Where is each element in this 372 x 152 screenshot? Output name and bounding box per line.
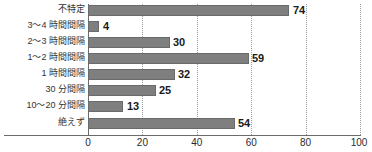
x-axis-line <box>4 135 361 136</box>
bar-row-6: 13 <box>88 101 360 117</box>
x-tick-label-0: 0 <box>85 137 91 148</box>
x-tick-label-2: 40 <box>191 137 202 148</box>
bar-value-3: 59 <box>252 50 264 66</box>
category-label-3: 1〜2 時間間隔 <box>0 52 85 63</box>
bar-5 <box>88 85 156 96</box>
bar-row-4: 32 <box>88 69 360 85</box>
x-tick-label-3: 60 <box>246 137 257 148</box>
bar-value-2: 30 <box>173 34 185 50</box>
bar-value-6: 13 <box>127 98 139 114</box>
bar-2 <box>88 37 170 48</box>
bar-3 <box>88 53 249 64</box>
category-label-2: 2〜3 時間間隔 <box>0 36 85 47</box>
category-label-1: 3〜4 時間間隔 <box>0 20 85 31</box>
category-label-7: 絶えず <box>0 117 85 128</box>
bar-value-5: 25 <box>159 82 171 98</box>
x-axis-tick-labels: 0 20 40 60 80 100 <box>0 137 372 152</box>
bar-row-7: 54 <box>88 118 360 134</box>
x-tick-label-4: 80 <box>300 137 311 148</box>
category-axis-labels: 不特定 3〜4 時間間隔 2〜3 時間間隔 1〜2 時間間隔 1 時間間隔 30… <box>0 4 85 135</box>
bar-4 <box>88 69 175 80</box>
bar-row-1: 4 <box>88 21 360 37</box>
bar-row-0: 74 <box>88 5 360 21</box>
bar-value-4: 32 <box>178 66 190 82</box>
x-tick-label-5: 100 <box>351 137 368 148</box>
bar-rows: 74 4 30 59 32 25 <box>88 4 360 135</box>
category-label-5: 30 分間隔 <box>0 84 85 95</box>
bar-1 <box>88 21 99 32</box>
bar-7 <box>88 118 235 129</box>
y-axis-line <box>88 4 89 135</box>
bar-value-1: 4 <box>103 18 109 34</box>
bar-row-2: 30 <box>88 37 360 53</box>
category-label-0: 不特定 <box>0 4 85 15</box>
bar-0 <box>88 5 289 16</box>
bar-value-0: 74 <box>293 2 305 18</box>
x-tick-label-1: 20 <box>137 137 148 148</box>
bar-value-7: 54 <box>238 115 250 131</box>
bar-row-3: 59 <box>88 53 360 69</box>
category-label-4: 1 時間間隔 <box>0 68 85 79</box>
category-label-6: 10〜20 分間隔 <box>0 100 85 111</box>
bar-chart: 不特定 3〜4 時間間隔 2〜3 時間間隔 1〜2 時間間隔 1 時間間隔 30… <box>0 0 372 152</box>
bar-6 <box>88 101 123 112</box>
plot-area: 74 4 30 59 32 25 <box>88 4 360 135</box>
